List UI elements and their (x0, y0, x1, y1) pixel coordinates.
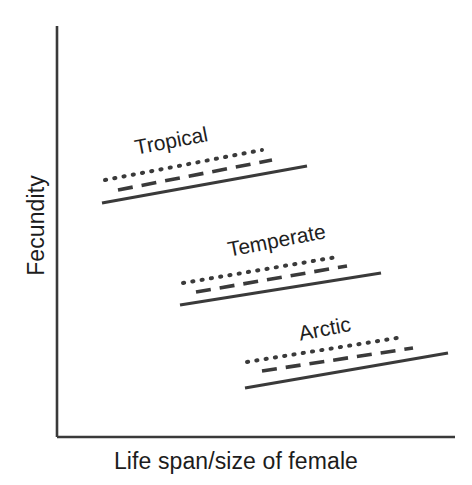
series-line-tropical-solid (102, 166, 307, 203)
data-series-lines (102, 150, 448, 388)
series-line-temperate-dotted (183, 257, 337, 283)
y-axis-title: Fecundity (23, 146, 50, 306)
series-line-temperate-dashed (196, 266, 347, 292)
series-group-temperate (180, 257, 381, 305)
series-group-tropical (102, 150, 307, 203)
series-line-arctic-dashed (262, 348, 413, 371)
series-group-arctic (245, 337, 448, 388)
figure-canvas: TropicalTemperateArctic Fecundity Life s… (0, 0, 472, 485)
x-axis-title: Life span/size of female (0, 448, 472, 475)
